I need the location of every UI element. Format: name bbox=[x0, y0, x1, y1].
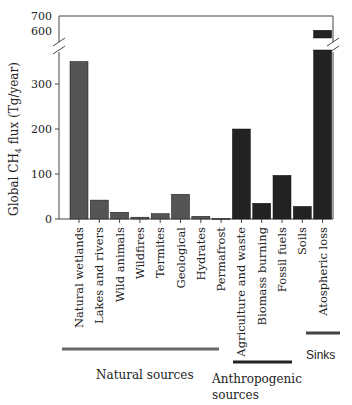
group-label-anthropogenic: Anthropogenic sources bbox=[212, 371, 302, 403]
bar bbox=[151, 214, 169, 219]
anthropogenic-line2: sources bbox=[212, 387, 302, 403]
category-label: Fossil fuels bbox=[275, 227, 289, 292]
category-label: Soils bbox=[295, 227, 309, 255]
y-tick-label: 700 bbox=[31, 10, 52, 23]
category-label: Atospheric loss bbox=[316, 227, 330, 317]
bar bbox=[172, 194, 190, 219]
group-label-sinks: Sinks bbox=[306, 348, 335, 362]
category-label: Lakes and rivers bbox=[92, 227, 106, 324]
category-label: Wildfires bbox=[133, 227, 147, 279]
category-label: Termites bbox=[153, 227, 167, 278]
bar bbox=[253, 203, 271, 219]
category-label: Hydrates bbox=[194, 227, 208, 281]
y-tick-label: 100 bbox=[31, 168, 52, 181]
group-brackets bbox=[62, 333, 340, 362]
bar-lower-segment bbox=[314, 50, 332, 219]
bar bbox=[212, 219, 230, 220]
bar bbox=[293, 206, 311, 219]
category-labels: Natural wetlandsLakes and riversWild ani… bbox=[72, 226, 330, 357]
anthropogenic-line1: Anthropogenic bbox=[212, 371, 302, 387]
bar bbox=[273, 175, 291, 219]
category-label: Permafrost bbox=[214, 227, 228, 292]
y-tick-label: 200 bbox=[31, 123, 52, 136]
bar bbox=[131, 217, 149, 219]
category-label: Geological bbox=[174, 227, 188, 289]
bar bbox=[111, 212, 129, 219]
bar bbox=[192, 216, 210, 219]
y-tick-label: 0 bbox=[45, 213, 52, 226]
category-label: Agriculture and waste bbox=[234, 227, 248, 358]
category-label: Wild animals bbox=[113, 227, 127, 302]
bar bbox=[232, 129, 250, 219]
category-label: Natural wetlands bbox=[72, 227, 86, 328]
bar-chart: 0100200300600700Global CH4 flux (Tg/year… bbox=[0, 0, 352, 405]
group-label-natural: Natural sources bbox=[96, 368, 194, 382]
y-tick-label: 300 bbox=[31, 78, 52, 91]
bars bbox=[70, 30, 332, 219]
bar bbox=[70, 62, 88, 220]
y-tick-label: 600 bbox=[31, 25, 52, 38]
category-label: Biomass burning bbox=[255, 226, 269, 325]
bar bbox=[90, 200, 108, 219]
y-axis-label: Global CH4 flux (Tg/year) bbox=[7, 62, 23, 216]
bar-upper-segment bbox=[314, 30, 332, 38]
